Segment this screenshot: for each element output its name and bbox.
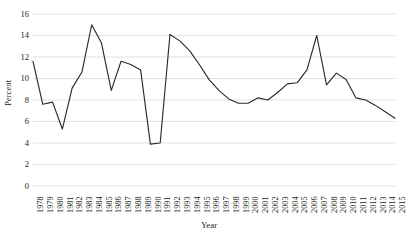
x-axis-tick-label: 1985 bbox=[105, 196, 114, 213]
x-axis-tick-label: 2002 bbox=[271, 196, 280, 213]
x-axis-tick-label: 1996 bbox=[212, 196, 221, 213]
x-axis-tick-label: 2003 bbox=[281, 196, 290, 213]
x-axis-tick-label: 1999 bbox=[242, 196, 251, 213]
y-axis-tick-label: 2 bbox=[11, 160, 29, 169]
x-axis-tick-label: 1998 bbox=[232, 196, 241, 213]
x-axis-tick-label: 1982 bbox=[75, 196, 84, 213]
x-axis-tick-label: 1987 bbox=[124, 196, 133, 213]
x-axis-tick-label: 1990 bbox=[154, 196, 163, 213]
line-chart: Percent 0246810121416 197819791980198119… bbox=[0, 0, 418, 238]
x-axis-tick-label: 2004 bbox=[291, 196, 300, 213]
x-axis-tick-label: 2005 bbox=[300, 196, 309, 213]
y-axis-tick-label: 6 bbox=[11, 117, 29, 126]
x-axis-tick-label: 1991 bbox=[163, 196, 172, 213]
x-axis-tick-label: 1997 bbox=[222, 196, 231, 213]
x-axis-tick-label: 2007 bbox=[320, 196, 329, 213]
y-axis-tick-label: 8 bbox=[11, 96, 29, 105]
gridlines bbox=[33, 14, 395, 186]
x-axis-tick-label: 2011 bbox=[359, 197, 368, 213]
y-axis-tick-label: 10 bbox=[11, 74, 29, 83]
y-axis-tick-label: 4 bbox=[11, 139, 29, 148]
x-axis-title: Year bbox=[0, 220, 418, 230]
x-axis-tick-label: 1994 bbox=[193, 196, 202, 213]
y-axis-title: Percent bbox=[0, 0, 16, 186]
plot-area bbox=[33, 14, 395, 186]
x-axis-tick-label: 1995 bbox=[203, 196, 212, 213]
data-series-line bbox=[33, 25, 395, 144]
x-axis-tick-label: 1983 bbox=[85, 196, 94, 213]
x-axis-tick-label: 1980 bbox=[56, 196, 65, 213]
x-axis-tick-label: 1986 bbox=[114, 196, 123, 213]
x-axis-tick-label: 1992 bbox=[173, 196, 182, 213]
x-axis-tick-label: 2015 bbox=[398, 196, 407, 213]
x-axis-tick-label: 1988 bbox=[134, 196, 143, 213]
x-axis-tick-label: 2000 bbox=[251, 196, 260, 213]
x-axis-tick-label: 2012 bbox=[369, 196, 378, 213]
x-axis-tick-label: 1993 bbox=[183, 196, 192, 213]
x-axis-tick-label: 1984 bbox=[95, 196, 104, 213]
x-axis-tick-label: 1978 bbox=[36, 196, 45, 213]
y-axis-tick-label: 12 bbox=[11, 53, 29, 62]
x-axis-tick-label: 1989 bbox=[144, 196, 153, 213]
x-axis-tick-label: 1979 bbox=[46, 196, 55, 213]
x-axis-tick-label: 2008 bbox=[330, 196, 339, 213]
y-axis-tick-label: 14 bbox=[11, 31, 29, 40]
x-axis-tick-label: 2014 bbox=[388, 196, 397, 213]
x-axis-tick-label: 2010 bbox=[349, 196, 358, 213]
x-axis-tick-label: 2001 bbox=[261, 196, 270, 213]
x-axis-tick-label: 2006 bbox=[310, 196, 319, 213]
x-axis-title-text: Year bbox=[201, 220, 217, 230]
x-axis-tick-label: 2009 bbox=[339, 196, 348, 213]
x-axis-tick-label: 2013 bbox=[379, 196, 388, 213]
plot-svg bbox=[33, 14, 395, 186]
x-axis-tick-label: 1981 bbox=[66, 196, 75, 213]
y-axis-tick-label: 0 bbox=[11, 182, 29, 191]
y-axis-tick-label: 16 bbox=[11, 10, 29, 19]
